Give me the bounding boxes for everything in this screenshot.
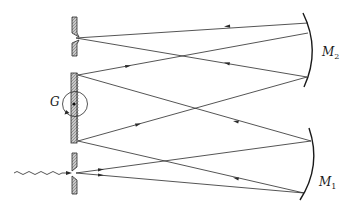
mirror-m2-label: M2 [322, 46, 339, 61]
mirror-m1-label-sub: 1 [331, 182, 336, 191]
ray-m1-lower-to-grating-bottom [78, 141, 304, 193]
mirror-m2-label-sub: 2 [334, 52, 339, 61]
mirror-m1-label-main: M [319, 175, 331, 189]
wavy-light-icon [14, 172, 66, 175]
ray-grating-bottom-to-m2-lower [78, 77, 307, 141]
arrow-right-icon [98, 168, 104, 171]
grating-label-text: G [50, 95, 60, 109]
exit-slit-lower-jaw [72, 40, 79, 56]
ray-grating-top-to-m2-upper [78, 33, 308, 75]
entrance-slit [72, 153, 77, 194]
arrow-right-icon [66, 171, 72, 175]
ray-entrance-to-m1-upper [76, 141, 311, 173]
ray-m2-upper-to-exit [76, 23, 308, 38]
grating-body [71, 73, 77, 143]
arrow-left-icon [233, 121, 239, 124]
exit-slit [72, 17, 79, 56]
ray-arrowheads [98, 25, 239, 181]
mirror-m1-label: M1 [319, 176, 336, 191]
entrance-slit-upper-jaw [72, 153, 77, 171]
arrow-left-icon [233, 177, 239, 180]
arrow-left-icon [224, 25, 230, 28]
grating [63, 73, 88, 143]
grating-label: G [50, 96, 60, 108]
light-rays [76, 23, 311, 193]
grating-pivot-icon [72, 102, 75, 105]
input-light [14, 171, 72, 175]
mirror-m2-label-main: M [322, 45, 334, 59]
mirror-m2 [303, 13, 312, 87]
arrow-right-icon [135, 124, 141, 127]
arrow-left-icon [224, 62, 230, 65]
entrance-slit-lower-jaw [72, 176, 77, 194]
ray-m2-lower-to-exit [76, 38, 307, 77]
ray-entrance-to-m1-lower [76, 173, 304, 193]
exit-slit-upper-jaw [72, 17, 79, 37]
